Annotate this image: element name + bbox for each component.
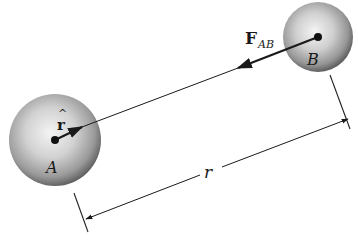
particle-a-center-dot: [51, 136, 59, 144]
force-f-label: F: [245, 28, 257, 48]
line-of-centers: [82, 68, 238, 127]
particle-b-center-dot: [314, 33, 322, 41]
dimension-line-left: [86, 175, 200, 219]
particle-b-label: B: [306, 50, 319, 69]
dimension-r-label: r: [204, 162, 213, 182]
extension-line-a: [74, 193, 88, 232]
dimension-line-right: [222, 119, 348, 167]
force-ab-subscript: AB: [257, 38, 274, 51]
extension-line-b: [330, 75, 350, 129]
unit-vector-hat: ^: [58, 107, 67, 120]
gravitation-diagram: r A B r ^ F AB: [0, 0, 358, 240]
particle-a-label: A: [44, 158, 58, 177]
